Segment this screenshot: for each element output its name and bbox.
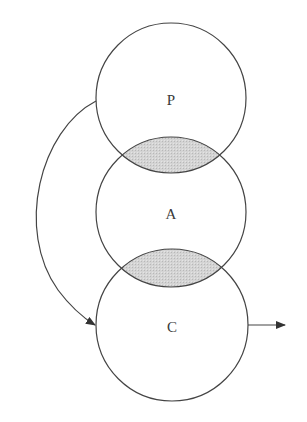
label-c: C bbox=[167, 319, 177, 335]
label-a: A bbox=[166, 206, 177, 222]
feedback-arrow bbox=[36, 101, 96, 325]
pac-venn-diagram: P A C bbox=[0, 0, 307, 422]
label-p: P bbox=[167, 92, 175, 108]
